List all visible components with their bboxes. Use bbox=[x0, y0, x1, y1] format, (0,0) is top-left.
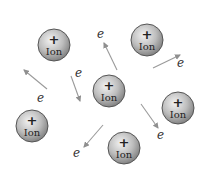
ion-charge-sign: + bbox=[142, 27, 153, 42]
electron-label: e bbox=[177, 56, 184, 70]
electron-label: e bbox=[97, 27, 104, 41]
electron: e bbox=[73, 125, 103, 160]
ion: +Ion bbox=[38, 29, 70, 61]
ion: +Ion bbox=[162, 92, 194, 124]
ion-label: Ion bbox=[170, 109, 187, 120]
ion-charge-sign: + bbox=[49, 32, 60, 47]
ion-charge-sign: + bbox=[119, 135, 130, 150]
ion-charge-sign: + bbox=[173, 95, 184, 110]
ion: +Ion bbox=[108, 132, 140, 164]
ion: +Ion bbox=[16, 110, 48, 142]
ions-electrons-diagram: eeeeee +Ion+Ion+Ion+Ion+Ion+Ion bbox=[0, 0, 214, 182]
electron: e bbox=[24, 70, 47, 105]
electron-label: e bbox=[73, 146, 80, 160]
electron-label: e bbox=[157, 128, 164, 142]
ion-label: Ion bbox=[101, 92, 118, 103]
ion-label: Ion bbox=[24, 127, 41, 138]
ion: +Ion bbox=[131, 24, 163, 56]
electron-velocity-arrow-icon bbox=[24, 70, 47, 89]
electron-label: e bbox=[37, 91, 44, 105]
electron: e bbox=[141, 104, 164, 142]
electron: e bbox=[153, 55, 184, 70]
electron-velocity-arrow-icon bbox=[141, 104, 158, 128]
electron: e bbox=[97, 27, 117, 70]
electron-label: e bbox=[75, 66, 82, 80]
electron-velocity-arrow-icon bbox=[84, 125, 103, 147]
ion-label: Ion bbox=[46, 46, 63, 57]
electron-velocity-arrow-icon bbox=[104, 43, 117, 70]
ion-charge-sign: + bbox=[27, 113, 38, 128]
ion: +Ion bbox=[93, 75, 125, 107]
ion-label: Ion bbox=[116, 149, 133, 160]
ion-charge-sign: + bbox=[104, 78, 115, 93]
electron-velocity-arrow-icon bbox=[153, 55, 180, 68]
electron: e bbox=[71, 66, 82, 101]
ion-label: Ion bbox=[139, 41, 156, 52]
